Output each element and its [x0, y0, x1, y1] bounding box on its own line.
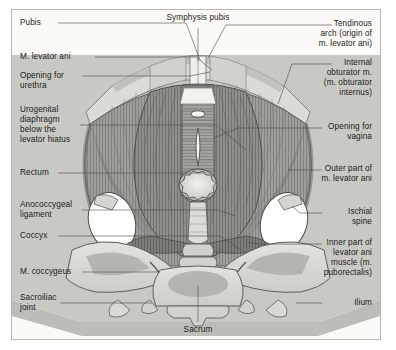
label-internal-obturator: Internal obturator m. (m. obturator inte…	[296, 58, 372, 98]
label-sacroiliac-joint: Sacroiliac joint	[20, 293, 57, 313]
anatomy-figure: Pubis M. levator ani Opening for urethra…	[0, 0, 396, 350]
label-ilium: Ilium	[320, 298, 372, 308]
label-coccyx: Coccyx	[20, 231, 47, 241]
label-rectum: Rectum	[20, 168, 49, 178]
label-tendinous-arch: Tendinous arch (origin of m. levator ani…	[300, 19, 372, 49]
label-anococcygeal-ligament: Anococcygeal ligament	[20, 200, 72, 220]
leader-anococcygeal-ligament	[82, 210, 236, 216]
leader-m-levator-ani	[95, 57, 212, 70]
label-opening-for-vagina: Opening for vagina	[300, 122, 372, 142]
label-symphysis-pubis: Symphysis pubis	[148, 13, 248, 23]
label-m-coccygeus: M. coccygeus	[20, 267, 71, 277]
label-urogenital-diaphragm: Urogenital diaphragm below the levator h…	[20, 105, 70, 145]
label-opening-for-urethra: Opening for urethra	[20, 71, 64, 91]
label-inner-part-levator-ani: Inner part of levator ani muscle (m. pub…	[296, 238, 372, 278]
leader-pubis	[58, 23, 200, 60]
label-pubis: Pubis	[20, 18, 41, 28]
leader-urogenital-diaphragm	[80, 125, 246, 150]
label-sacrum: Sacrum	[165, 325, 231, 335]
leader-coccyx	[58, 236, 242, 250]
label-ischial-spine: Ischial spine	[308, 207, 372, 227]
label-m-levator-ani: M. levator ani	[20, 52, 71, 62]
leader-opening-for-urethra	[82, 72, 210, 76]
label-outer-part-levator-ani: Outer part of m. levator ani	[296, 164, 372, 184]
